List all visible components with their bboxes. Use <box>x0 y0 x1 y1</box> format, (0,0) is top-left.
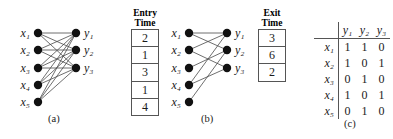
matrix-cell: 1 <box>339 39 357 56</box>
table-row: x₂ 1 0 1 <box>314 55 390 71</box>
entry-time-cell: 1 <box>132 47 158 64</box>
matrix-corner-cell <box>314 22 339 39</box>
label-x5: x₅ <box>171 95 182 109</box>
matrix-cell: 1 <box>339 87 357 103</box>
label-x2: x₂ <box>20 43 31 57</box>
exit-time-cell: 6 <box>259 47 285 64</box>
label-y3: y₃ <box>234 61 245 75</box>
matrix-cell: 1 <box>373 87 390 103</box>
entry-time-cell: 1 <box>132 82 158 99</box>
table-row: x₁ 1 1 0 <box>314 39 390 56</box>
caption-c: (c) <box>344 118 356 129</box>
exit-time-title-line1: Exit <box>258 8 286 18</box>
entry-time-cells: 2 1 3 1 4 <box>131 29 159 116</box>
graph-a-left-labels: x₁ x₂ x₃ x₄ x₅ <box>20 26 31 109</box>
table-row: x₄ 1 0 1 <box>314 87 390 103</box>
matrix-row-header: x₃ <box>314 71 339 87</box>
label-x2: x₂ <box>171 43 182 57</box>
matrix-cell: 0 <box>356 55 373 71</box>
bipartite-graph-b: x₁ x₂ x₃ x₄ x₅ y₁ y₂ y₃ <box>165 0 260 120</box>
vertex-y3 <box>223 64 231 72</box>
label-x1: x₁ <box>171 26 182 40</box>
matrix-col-header: y₁ <box>339 22 357 39</box>
entry-time-cell: 3 <box>132 64 158 81</box>
entry-time-cell: 4 <box>132 99 158 116</box>
table-row: x₅ 0 1 0 <box>314 103 390 119</box>
entry-time-title-line2: Time <box>131 18 159 28</box>
exit-time-cells: 3 6 2 <box>258 29 286 82</box>
vertex-x1 <box>185 29 193 37</box>
vertex-x5 <box>185 98 193 106</box>
matrix-cell: 0 <box>339 103 357 119</box>
graph-b-right-labels: y₁ y₂ y₃ <box>234 26 245 75</box>
exit-time-cell: 3 <box>259 30 285 47</box>
matrix-cell: 1 <box>356 71 373 87</box>
label-y3: y₃ <box>83 61 94 75</box>
vertex-x4 <box>185 81 193 89</box>
vertex-x3 <box>185 64 193 72</box>
vertex-y1 <box>72 29 80 37</box>
matrix-col-header: y₃ <box>373 22 390 39</box>
graph-b-left-labels: x₁ x₂ x₃ x₄ x₅ <box>171 26 182 109</box>
vertex-y2 <box>72 46 80 54</box>
matrix-header-row: y₁ y₂ y₃ <box>314 22 390 39</box>
exit-time-title: Exit Time <box>258 8 286 28</box>
label-x4: x₄ <box>20 78 31 92</box>
exit-time-title-line2: Time <box>258 18 286 28</box>
panel-c: y₁ y₂ y₃ x₁ 1 1 0 x₂ 1 0 1 x₃ 0 1 0 <box>300 0 393 139</box>
matrix-cell: 0 <box>356 87 373 103</box>
matrix-cell: 0 <box>339 71 357 87</box>
vertex-y1 <box>223 29 231 37</box>
label-x3: x₃ <box>171 61 182 75</box>
entry-time-title-line1: Entry <box>131 8 159 18</box>
vertex-y3 <box>72 64 80 72</box>
panel-a: x₁ x₂ x₃ x₄ x₅ y₁ y₂ y₃ (a) <box>0 0 128 139</box>
graph-b-vertices <box>185 29 231 106</box>
label-y2: y₂ <box>83 43 94 57</box>
matrix-row-header: x₂ <box>314 55 339 71</box>
graph-a-edges <box>38 33 76 102</box>
entry-time-box: Entry Time 2 1 3 1 4 <box>131 8 159 116</box>
label-y1: y₁ <box>83 26 94 40</box>
matrix-cell: 1 <box>339 55 357 71</box>
label-y2: y₂ <box>234 43 245 57</box>
vertex-x4 <box>34 81 42 89</box>
graph-b-edges <box>189 33 227 102</box>
vertex-x2 <box>185 46 193 54</box>
vertex-x1 <box>34 29 42 37</box>
vertex-y2 <box>223 46 231 54</box>
graph-a-right-labels: y₁ y₂ y₃ <box>83 26 94 75</box>
vertex-x3 <box>34 64 42 72</box>
matrix-cell: 0 <box>373 39 390 56</box>
entry-time-title: Entry Time <box>131 8 159 28</box>
caption-a: (a) <box>48 113 60 124</box>
vertex-x5 <box>34 98 42 106</box>
matrix-row-header: x₁ <box>314 39 339 56</box>
matrix-cell: 0 <box>373 103 390 119</box>
matrix-row-header: x₄ <box>314 87 339 103</box>
table-row: x₃ 0 1 0 <box>314 71 390 87</box>
matrix-row-header: x₅ <box>314 103 339 119</box>
matrix-cell: 1 <box>356 103 373 119</box>
matrix-cell: 0 <box>373 71 390 87</box>
exit-time-cell: 2 <box>259 64 285 81</box>
exit-time-box: Exit Time 3 6 2 <box>258 8 286 82</box>
label-x3: x₃ <box>20 61 31 75</box>
panel-b: x₁ x₂ x₃ x₄ x₅ y₁ y₂ y₃ (b) <box>165 0 260 139</box>
vertex-x2 <box>34 46 42 54</box>
matrix-col-header: y₂ <box>356 22 373 39</box>
label-x1: x₁ <box>20 26 31 40</box>
matrix-cell: 1 <box>356 39 373 56</box>
matrix-cell: 1 <box>373 55 390 71</box>
caption-b: (b) <box>201 113 213 124</box>
label-x5: x₅ <box>20 95 31 109</box>
bipartite-graph-a: x₁ x₂ x₃ x₄ x₅ y₁ y₂ y₃ <box>0 0 128 120</box>
biadjacency-matrix: y₁ y₂ y₃ x₁ 1 1 0 x₂ 1 0 1 x₃ 0 1 0 <box>314 22 390 119</box>
label-x4: x₄ <box>171 78 182 92</box>
entry-time-cell: 2 <box>132 30 158 47</box>
label-y1: y₁ <box>234 26 245 40</box>
